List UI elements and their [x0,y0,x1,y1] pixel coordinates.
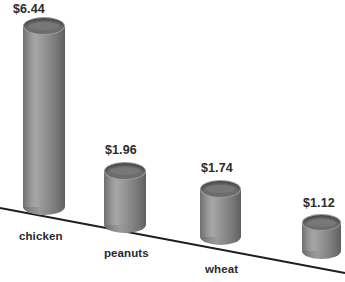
cylinder-wheat [200,180,241,246]
cylinder-top-inner [206,185,236,193]
category-label-chicken: chicken [19,230,63,242]
bar-peanuts [104,162,146,234]
value-label-peanuts: $1.96 [105,143,137,157]
cylinder-top-ellipse [200,180,241,198]
category-label-wheat: wheat [205,263,238,275]
cylinder-chicken [23,17,65,216]
cylinder-top-ellipse [104,162,146,180]
bar-chicken [23,17,65,216]
bar-wheat [200,180,241,246]
cylinder-top-inner [307,219,335,227]
cylinder-top-ellipse [302,214,341,231]
cylinder-bar4 [302,214,341,260]
cylinder-body [23,26,65,207]
cylinder-top-inner [110,167,140,175]
category-label-peanuts: peanuts [104,247,149,259]
cylinder-bar-chart: $6.44 chicken $1.96 peanuts $1.74 [0,0,345,282]
cylinder-peanuts [104,162,146,234]
cylinder-top-ellipse [23,17,65,35]
value-label-chicken: $6.44 [13,2,45,16]
value-label-bar4: $1.12 [303,196,335,210]
bar-4 [302,214,341,260]
value-label-wheat: $1.74 [201,161,233,175]
cylinder-top-inner [29,22,59,30]
